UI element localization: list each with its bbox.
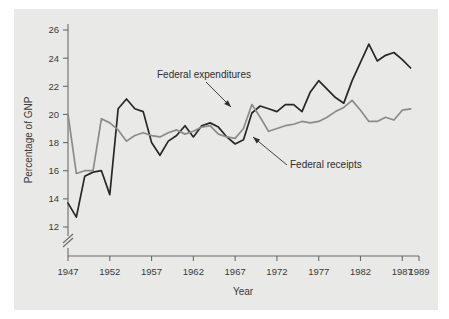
x-tick-label: 1957 [141,266,162,277]
x-tick-label: 1962 [183,266,204,277]
y-tick-label: 16 [48,165,59,176]
chart-figure: 1214161820222426 19471952195719621967197… [0,0,449,319]
x-axis-title: Year [233,286,254,297]
x-tick-label: 1989 [408,266,429,277]
x-tick-label: 1947 [57,266,78,277]
y-tick-group: 1214161820222426 [48,24,68,232]
y-tick-label: 26 [48,24,59,35]
annotation-label-receipts: Federal receipts [290,159,362,170]
y-tick-label: 24 [48,53,59,64]
x-tick-label: 1952 [99,266,120,277]
chart-canvas: 1214161820222426 19471952195719621967197… [0,0,449,319]
y-tick-label: 18 [48,137,59,148]
y-tick-label: 14 [48,193,59,204]
annotation-federal-receipts: Federal receipts [253,137,362,170]
y-tick-label: 20 [48,109,59,120]
y-axis-title: Percentage of GNP [23,96,34,183]
annotation-federal-expenditures: Federal expenditures [157,69,251,107]
annotation-label-expenditures: Federal expenditures [157,69,251,80]
x-tick-label: 1977 [308,266,329,277]
x-tick-group: 1947195219571962196719721977198219871989 [57,256,429,277]
x-tick-label: 1982 [350,266,371,277]
y-tick-label: 22 [48,81,59,92]
x-tick-label: 1972 [266,266,287,277]
x-tick-label: 1967 [225,266,246,277]
y-tick-label: 12 [48,221,59,232]
